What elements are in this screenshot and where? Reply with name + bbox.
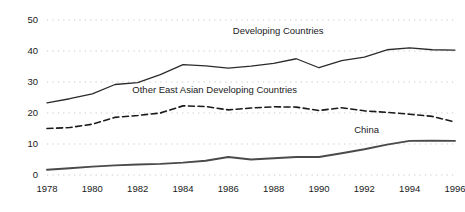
series-annotations: Developing CountriesOther East Asian Dev… xyxy=(132,25,379,135)
x-tick-label: 1984 xyxy=(172,183,193,194)
x-tick-label: 1988 xyxy=(263,183,284,194)
x-tick-label: 1986 xyxy=(218,183,239,194)
series-lines xyxy=(47,48,455,170)
x-tick-label: 1978 xyxy=(36,183,57,194)
series-label-developing-countries: Developing Countries xyxy=(233,25,324,36)
y-tick-label: 50 xyxy=(27,14,38,25)
series-label-other-east-asian-developing-countries: Other East Asian Developing Countries xyxy=(132,84,297,95)
y-tick-label: 20 xyxy=(27,107,38,118)
x-tick-label: 1996 xyxy=(444,183,465,194)
line-chart: 01020304050 1978198019821984198619881990… xyxy=(0,0,465,212)
x-tick-label: 1990 xyxy=(308,183,329,194)
x-tick-label: 1982 xyxy=(127,183,148,194)
y-tick-label: 0 xyxy=(33,169,38,180)
x-tick-label: 1994 xyxy=(399,183,420,194)
y-tick-label: 30 xyxy=(27,76,38,87)
x-axis-labels: 1978198019821984198619881990199219941996 xyxy=(36,183,465,194)
series-label-china: China xyxy=(354,124,380,135)
x-tick-label: 1980 xyxy=(82,183,103,194)
series-line-china xyxy=(47,141,455,170)
x-tick-label: 1992 xyxy=(354,183,375,194)
series-line-other-east-asian-developing-countries xyxy=(47,106,455,129)
gridlines xyxy=(47,20,455,175)
y-tick-label: 10 xyxy=(27,138,38,149)
y-tick-label: 40 xyxy=(27,45,38,56)
chart-canvas: 01020304050 1978198019821984198619881990… xyxy=(0,0,465,212)
y-axis-labels: 01020304050 xyxy=(27,14,38,180)
